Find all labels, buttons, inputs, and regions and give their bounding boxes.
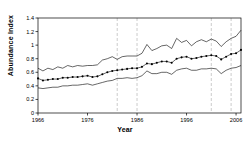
y-tick-label: 0.2 (26, 96, 34, 102)
data-point-marker (72, 76, 74, 78)
data-point-marker (220, 58, 222, 60)
data-point-marker (121, 69, 123, 71)
y-tick-label: 1.4 (26, 15, 34, 21)
data-point-marker (181, 56, 183, 58)
data-point-marker (47, 79, 49, 81)
data-point-marker (77, 76, 79, 78)
data-point-marker (52, 78, 54, 80)
x-tick-label: 2006 (230, 117, 242, 123)
data-point-marker (141, 66, 143, 68)
data-point-marker (235, 52, 237, 54)
data-point-marker (171, 62, 173, 64)
data-point-marker (42, 79, 44, 81)
chart-canvas: 00.20.40.60.811.21.419661976198619962006 (0, 0, 250, 142)
data-point-marker (136, 67, 138, 69)
y-tick-label: 0.6 (26, 69, 34, 75)
data-point-marker (195, 57, 197, 59)
data-point-marker (116, 69, 118, 71)
data-point-marker (67, 77, 69, 79)
data-point-marker (146, 62, 148, 64)
data-point-marker (96, 75, 98, 77)
data-point-marker (57, 78, 59, 80)
y-axis-title: Abundance Index (7, 10, 14, 82)
data-point-marker (205, 55, 207, 57)
y-tick-label: 1.2 (26, 29, 34, 35)
x-tick-label: 1976 (81, 117, 93, 123)
x-tick-label: 1996 (180, 117, 192, 123)
data-point-marker (82, 75, 84, 77)
y-tick-label: 0.4 (26, 83, 34, 89)
data-point-marker (161, 60, 163, 62)
data-point-marker (37, 77, 39, 79)
data-series-line (38, 30, 241, 71)
x-tick-label: 1966 (32, 117, 44, 123)
data-point-marker (210, 54, 212, 56)
y-tick-label: 0 (31, 110, 34, 116)
data-point-marker (86, 75, 88, 77)
data-point-marker (200, 56, 202, 58)
data-point-marker (166, 60, 168, 62)
data-point-marker (101, 73, 103, 75)
x-tick-label: 1986 (131, 117, 143, 123)
chart-figure: 00.20.40.60.811.21.419661976198619962006… (0, 0, 250, 142)
x-axis-title: Year (0, 126, 250, 133)
data-point-marker (131, 67, 133, 69)
data-point-marker (156, 62, 158, 64)
data-point-marker (91, 76, 93, 78)
data-point-marker (126, 68, 128, 70)
data-point-marker (151, 63, 153, 65)
data-point-marker (225, 56, 227, 58)
data-point-marker (62, 77, 64, 79)
data-point-marker (176, 58, 178, 60)
data-point-marker (106, 71, 108, 73)
data-point-marker (185, 56, 187, 58)
data-point-marker (111, 70, 113, 72)
data-point-marker (230, 53, 232, 55)
data-point-marker (215, 55, 217, 57)
y-tick-label: 0.8 (26, 56, 34, 62)
data-point-marker (190, 58, 192, 60)
data-point-marker (240, 49, 242, 51)
y-tick-label: 1 (31, 42, 34, 48)
